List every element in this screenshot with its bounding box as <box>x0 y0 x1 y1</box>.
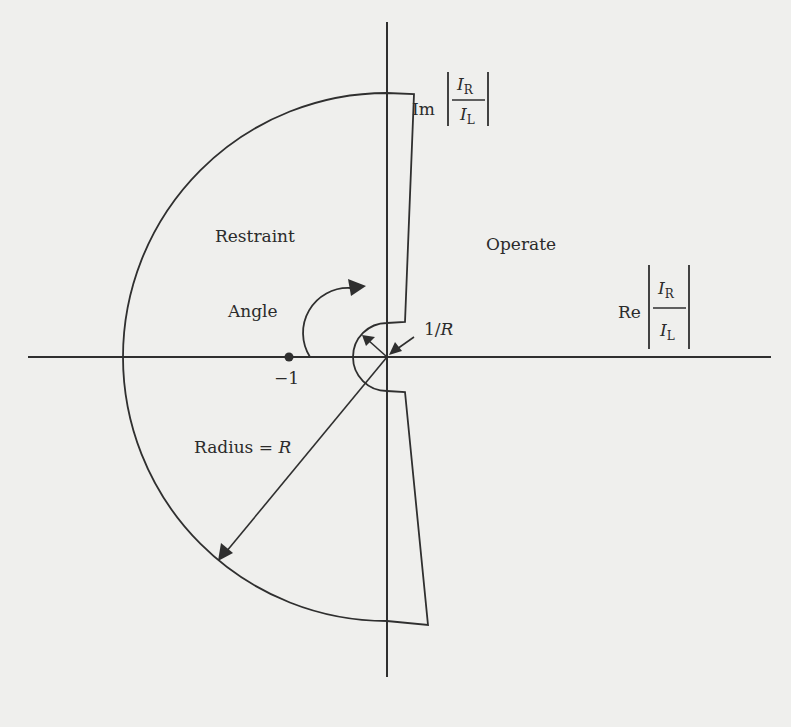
svg-text:Im: Im <box>412 99 435 119</box>
outer-radius-label: Radius = R <box>194 437 291 457</box>
restraint-label: Restraint <box>215 226 295 246</box>
angle-arrowhead-icon <box>348 279 366 296</box>
imaginary-axis-label: Im IR IL <box>412 72 488 127</box>
minus-one-label: −1 <box>274 368 299 388</box>
restraint-characteristic-diagram: Restraint Operate Angle −1 1/R Radius = … <box>0 0 791 727</box>
inner-radius-line <box>368 340 387 357</box>
angle-arc <box>303 288 350 357</box>
svg-text:IR: IR <box>657 278 675 301</box>
one-over-r-label: 1/R <box>424 319 454 339</box>
svg-text:IL: IL <box>659 320 675 343</box>
svg-text:IL: IL <box>459 104 475 127</box>
real-axis-label: Re IR IL <box>618 265 689 349</box>
operate-label: Operate <box>486 234 556 254</box>
restraint-boundary <box>123 93 428 625</box>
minus-one-point <box>285 353 294 362</box>
angle-label: Angle <box>227 301 278 321</box>
svg-text:Re: Re <box>618 302 641 322</box>
one-over-r-arrowhead-icon <box>389 342 402 355</box>
svg-text:IR: IR <box>456 74 474 97</box>
one-over-r-pointer-line <box>397 337 414 349</box>
